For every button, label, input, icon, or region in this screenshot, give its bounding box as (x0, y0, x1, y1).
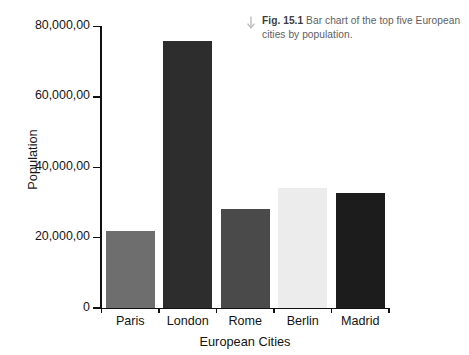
x-axis-tick-mark (101, 308, 103, 313)
bar-berlin (278, 188, 327, 308)
x-axis-tick-label: Rome (217, 314, 275, 328)
x-axis-tick-label: Madrid (332, 314, 390, 328)
y-axis-tick-mark (93, 167, 101, 169)
x-axis-tick-mark (388, 308, 390, 313)
x-axis-tick-mark (216, 308, 218, 313)
bar-chart: Population 020,000,0040,000,0060,000,008… (0, 0, 469, 355)
bar-madrid (336, 193, 385, 308)
down-arrow-icon (246, 16, 256, 29)
x-axis-title: European Cities (100, 334, 390, 349)
bar-paris (106, 231, 155, 308)
caption-text: Fig. 15.1 Bar chart of the top five Euro… (262, 14, 461, 42)
x-axis-tick-label: Paris (102, 314, 160, 328)
bar-series (0, 0, 469, 355)
x-axis-tick-mark (158, 308, 160, 313)
y-axis-tick-mark (93, 26, 101, 28)
x-axis-tick-label: Berlin (274, 314, 332, 328)
figure-caption: Fig. 15.1 Bar chart of the top five Euro… (246, 14, 461, 42)
x-axis-tick-mark (331, 308, 333, 313)
bar-rome (221, 209, 270, 308)
bar-london (163, 41, 212, 308)
x-axis-tick-label: London (159, 314, 217, 328)
x-axis-tick-mark (273, 308, 275, 313)
caption-label: Fig. 15.1 (262, 15, 303, 26)
y-axis-tick-mark (93, 96, 101, 98)
y-axis-tick-mark (93, 237, 101, 239)
